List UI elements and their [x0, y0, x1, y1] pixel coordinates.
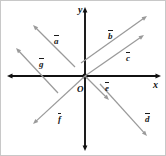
vector-label-c-glyph: c — [126, 54, 130, 63]
axes-group — [7, 7, 161, 151]
vector-label-a: a — [54, 35, 59, 46]
vector-label-e-glyph: e — [105, 84, 109, 93]
vector-label-g: g — [39, 58, 44, 69]
vector-label-b: b — [108, 30, 113, 41]
x-axis-arrowhead — [155, 74, 161, 79]
y-axis-arrowhead — [83, 7, 88, 13]
vector-label-b-glyph: b — [108, 32, 113, 41]
vector-diagram-figure: abcdefgxyO — [0, 0, 166, 156]
vector-g-line — [18, 51, 58, 93]
vector-label-d-glyph: d — [145, 115, 150, 124]
x-axis-arrowhead-reverse — [7, 74, 13, 79]
vector-label-f-glyph: f — [58, 115, 61, 124]
vector-canvas — [1, 1, 166, 156]
vector-c-arrowhead — [139, 35, 144, 40]
x-axis-label: x — [153, 80, 158, 90]
y-axis-arrowhead-reverse — [83, 145, 88, 151]
vector-label-a-glyph: a — [54, 37, 59, 46]
origin-label: O — [77, 85, 84, 94]
vector-label-c: c — [126, 52, 130, 63]
vector-c-line — [85, 37, 141, 76]
vector-label-e: e — [105, 82, 109, 93]
vector-label-f: f — [58, 113, 61, 124]
vector-label-d: d — [145, 113, 150, 124]
vector-label-g-glyph: g — [39, 60, 44, 69]
y-axis-label: y — [78, 5, 82, 15]
